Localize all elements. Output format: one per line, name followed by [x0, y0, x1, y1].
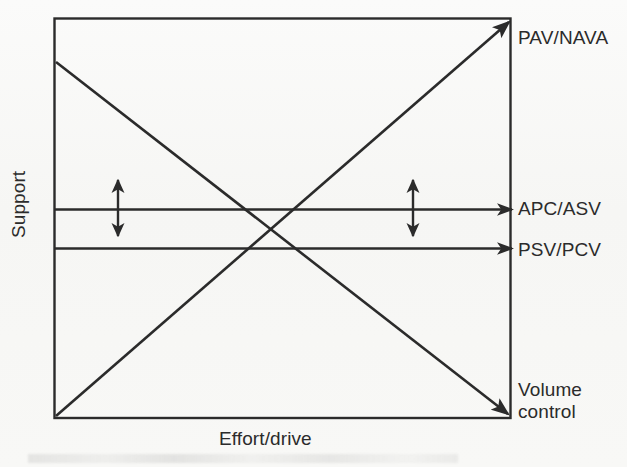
x-axis-label: Effort/drive — [219, 428, 312, 450]
series-label-volume-control: Volume control — [518, 379, 613, 423]
series-label-pav-nava: PAV/NAVA — [518, 27, 608, 49]
series-line-volume-control — [56, 62, 508, 414]
series-line-pav-nava — [56, 22, 509, 416]
y-axis-label: Support — [8, 171, 30, 238]
caption-remnant — [28, 454, 458, 463]
series-label-apc-asv: APC/ASV — [518, 198, 601, 220]
figure-page: Support Effort/drive PAV/NAVA APC/ASV PS… — [0, 0, 627, 467]
series-label-psv-pcv: PSV/PCV — [518, 239, 601, 261]
